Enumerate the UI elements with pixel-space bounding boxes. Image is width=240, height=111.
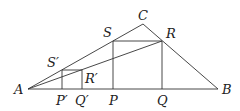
label-p-prime: P′ [55, 93, 68, 108]
label-p: P [108, 93, 118, 108]
square-pqrs [113, 41, 162, 89]
label-r-prime: R′ [84, 71, 98, 86]
segment-cb [143, 24, 218, 89]
label-r: R [165, 26, 176, 41]
label-q-prime: Q′ [75, 93, 89, 108]
label-c: C [138, 8, 148, 23]
label-a: A [13, 82, 23, 97]
label-s: S [103, 25, 112, 40]
label-q: Q [157, 93, 168, 108]
geometry-diagram: A B C S R P Q S′ R′ P′ Q′ [0, 0, 240, 111]
label-b: B [221, 82, 232, 97]
label-s-prime: S′ [47, 55, 59, 70]
